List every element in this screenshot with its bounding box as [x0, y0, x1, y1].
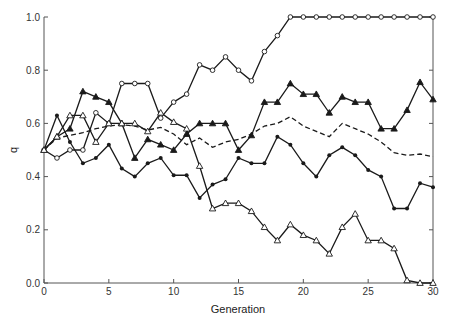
- filled-triangle-marker: [339, 94, 345, 100]
- y-tick-label: 0.8: [26, 65, 40, 76]
- open-circle-marker: [210, 68, 215, 73]
- filled-circle-marker: [340, 145, 344, 149]
- filled-triangle-marker: [404, 107, 410, 113]
- filled-circle-marker: [94, 156, 98, 160]
- filled-circle-marker: [379, 175, 383, 179]
- x-tick-label: 5: [106, 286, 112, 297]
- open-circle-marker: [197, 63, 202, 68]
- open-circle-marker: [249, 79, 254, 84]
- open-circle-marker: [132, 81, 137, 86]
- open-circle-marker: [236, 68, 241, 73]
- axes: 0510152025300.00.20.40.60.81.0: [26, 12, 439, 298]
- filled-triangle-marker: [287, 80, 293, 86]
- filled-triangle-marker: [417, 79, 423, 85]
- filled-circle-marker: [185, 173, 189, 177]
- filled-circle-marker: [392, 207, 396, 211]
- open-circle-marker: [275, 33, 280, 38]
- filled-circle-marker: [288, 143, 292, 147]
- filled-circle-marker: [159, 156, 163, 160]
- open-circle-marker: [68, 148, 73, 153]
- open-circle-marker: [379, 15, 384, 20]
- filled-circle-marker: [237, 156, 241, 160]
- open-triangle-marker: [404, 277, 410, 283]
- open-circle-marker: [158, 116, 163, 121]
- filled-circle-marker: [146, 161, 150, 165]
- open-circle-marker: [301, 15, 306, 20]
- open-circle-marker: [327, 15, 332, 20]
- open-circle-marker: [340, 15, 345, 20]
- filled-circle-marker: [262, 161, 266, 165]
- filled-circle-marker: [224, 177, 228, 181]
- series-line: [44, 17, 433, 158]
- series-group: [41, 15, 436, 286]
- open-triangle-marker: [183, 126, 189, 132]
- y-tick-label: 0.0: [26, 278, 40, 289]
- filled-circle-marker: [418, 181, 422, 185]
- x-tick-label: 30: [427, 286, 439, 297]
- filled-circle-marker: [249, 161, 253, 165]
- y-tick-label: 0.2: [26, 224, 40, 235]
- filled-circle-marker: [366, 168, 370, 172]
- filled-circle-marker: [55, 113, 59, 117]
- filled-circle-marker: [172, 173, 176, 177]
- filled-circle-marker: [198, 196, 202, 200]
- x-tick-label: 10: [168, 286, 180, 297]
- open-circle-marker: [288, 15, 293, 20]
- open-triangle-marker: [54, 134, 60, 140]
- open-circle-marker: [55, 156, 60, 161]
- filled-triangle-marker: [67, 126, 73, 132]
- open-circle-marker: [94, 110, 99, 115]
- open-triangle-marker: [391, 245, 397, 251]
- open-circle-marker: [392, 15, 397, 20]
- series-filled-triangle: [41, 79, 436, 160]
- filled-circle-marker: [275, 135, 279, 139]
- open-circle-marker: [120, 81, 125, 86]
- x-tick-label: 20: [298, 286, 310, 297]
- open-circle-marker: [405, 15, 410, 20]
- y-tick-label: 0.6: [26, 118, 40, 129]
- line-chart: 0510152025300.00.20.40.60.81.0 Generatio…: [0, 0, 450, 322]
- filled-circle-marker: [211, 183, 215, 187]
- x-tick-label: 0: [41, 286, 47, 297]
- filled-circle-marker: [301, 161, 305, 165]
- y-axis-label: q: [7, 147, 19, 153]
- filled-triangle-marker: [80, 88, 86, 94]
- open-circle-marker: [81, 148, 86, 153]
- open-triangle-marker: [248, 208, 254, 214]
- filled-circle-marker: [327, 153, 331, 157]
- open-circle-marker: [314, 15, 319, 20]
- filled-circle-marker: [68, 140, 72, 144]
- filled-circle-marker: [120, 167, 124, 171]
- open-triangle-marker: [196, 163, 202, 169]
- open-circle-marker: [431, 15, 436, 20]
- filled-circle-marker: [133, 175, 137, 179]
- open-circle-marker: [366, 15, 371, 20]
- open-triangle-marker: [352, 211, 358, 217]
- open-circle-marker: [145, 81, 150, 86]
- filled-circle-marker: [107, 143, 111, 147]
- y-tick-label: 1.0: [26, 12, 40, 23]
- x-tick-label: 25: [363, 286, 375, 297]
- open-circle-marker: [353, 15, 358, 20]
- filled-circle-marker: [314, 175, 318, 179]
- open-circle-marker: [262, 49, 267, 54]
- open-triangle-marker: [287, 221, 293, 227]
- series-open-triangle: [41, 110, 436, 286]
- open-circle-marker: [184, 92, 189, 97]
- filled-circle-marker: [81, 161, 85, 165]
- filled-circle-marker: [405, 207, 409, 211]
- y-tick-label: 0.4: [26, 171, 40, 182]
- filled-circle-marker: [431, 185, 435, 189]
- series-filled-circle: [42, 113, 435, 210]
- filled-circle-marker: [353, 153, 357, 157]
- x-axis-label: Generation: [211, 303, 265, 315]
- series-line: [44, 115, 433, 208]
- x-tick-label: 15: [233, 286, 245, 297]
- filled-triangle-marker: [145, 136, 151, 142]
- open-circle-marker: [171, 100, 176, 105]
- open-circle-marker: [418, 15, 423, 20]
- open-circle-marker: [223, 55, 228, 60]
